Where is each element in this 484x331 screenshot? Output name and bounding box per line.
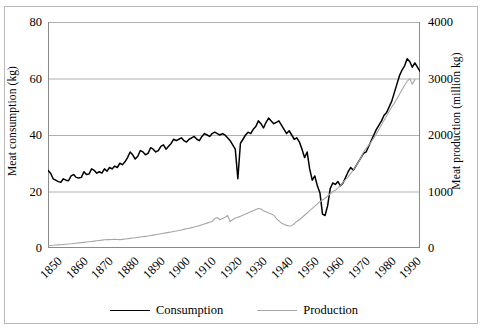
chart-canvas [48, 22, 420, 248]
chart-legend: Consumption Production [48, 300, 420, 320]
chart-page: Meat consumption (kg) Meat production (m… [0, 0, 484, 331]
x-tick-1910: 1910 [191, 254, 219, 282]
plot-area [48, 22, 420, 248]
x-tick-1940: 1940 [268, 254, 296, 282]
legend-label-production: Production [303, 303, 358, 318]
x-tick-1890: 1890 [140, 254, 168, 282]
x-tick-1870: 1870 [89, 254, 117, 282]
x-tick-1970: 1970 [345, 254, 373, 282]
legend-item-production: Production [257, 303, 358, 318]
y-tick-right-2000: 2000 [428, 129, 453, 142]
series-line-production [48, 79, 415, 246]
x-axis-tick-labels: 1850186018701880189019001910192019301940… [48, 250, 420, 294]
legend-line-consumption-icon [110, 310, 150, 311]
x-tick-1860: 1860 [63, 254, 91, 282]
y-tick-left-80: 80 [8, 16, 42, 29]
x-tick-1980: 1980 [371, 254, 399, 282]
y-tick-right-1000: 1000 [428, 185, 453, 198]
data-series-layer [48, 59, 420, 246]
gridlines [48, 23, 420, 193]
y-tick-right-4000: 4000 [428, 16, 453, 29]
x-tick-1880: 1880 [114, 254, 142, 282]
y-tick-right-0: 0 [428, 242, 434, 255]
x-tick-1960: 1960 [320, 254, 348, 282]
y-tick-left-20: 20 [8, 185, 42, 198]
y-tick-left-0: 0 [8, 242, 42, 255]
legend-line-production-icon [257, 310, 297, 311]
x-tick-1920: 1920 [217, 254, 245, 282]
x-tick-1950: 1950 [294, 254, 322, 282]
legend-item-consumption: Consumption [110, 303, 223, 318]
y-tick-left-60: 60 [8, 72, 42, 85]
y-axis-right-tick-labels: 01000200030004000 [428, 22, 472, 248]
y-tick-right-3000: 3000 [428, 72, 453, 85]
y-axis-left-tick-labels: 020406080 [8, 22, 42, 248]
x-tick-1930: 1930 [243, 254, 271, 282]
y-tick-left-40: 40 [8, 129, 42, 142]
legend-label-consumption: Consumption [156, 303, 223, 318]
x-tick-1900: 1900 [166, 254, 194, 282]
